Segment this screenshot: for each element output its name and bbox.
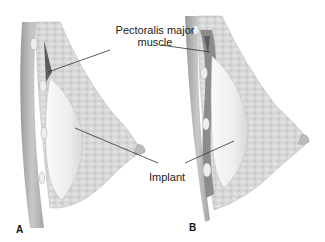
panel-a-illustration [20,22,145,228]
panel-letter-a: A [16,224,23,235]
label-pectoralis-line1: Pectoralis major [100,24,210,36]
label-pectoralis-major-muscle: Pectoralis major muscle [100,24,210,48]
label-implant: Implant [149,171,185,183]
panel-letter-b: B [189,222,196,233]
label-pectoralis-line2: muscle [100,36,210,48]
